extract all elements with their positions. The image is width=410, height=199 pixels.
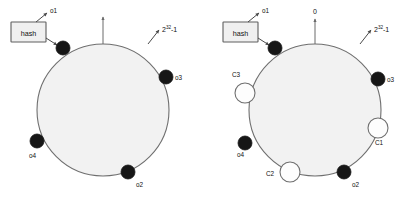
object-node-o2-right	[337, 165, 351, 179]
hash-function-label-right: hash	[233, 29, 249, 38]
object-node-o2-left	[121, 165, 135, 179]
ring-diagram-canvas: 232-1 hash o1 o3 o2 o4 0	[0, 0, 410, 199]
cache-node-c3-right	[235, 83, 255, 103]
cache-label-c2-right: C2	[266, 170, 275, 177]
cache-label-c3-right: C3	[232, 71, 241, 78]
hash-to-ring-pointer-right	[258, 38, 269, 45]
object-label-o4-right: o4	[237, 151, 245, 158]
hash-ring-circle-left	[37, 44, 169, 176]
max-range-label-left: 232-1	[162, 25, 177, 33]
object-label-o3-right: o3	[387, 76, 395, 83]
hash-function-label-left: hash	[21, 29, 37, 38]
o1-pointer-label-left: o1	[50, 7, 58, 14]
o1-pointer-label-right: o1	[262, 7, 270, 14]
object-node-o4-left	[30, 134, 44, 148]
hash-to-o1-pointer-left	[36, 13, 47, 22]
hash-ring-circle-right	[249, 44, 381, 176]
object-node-o1-left	[56, 41, 70, 55]
cache-node-c1-right	[368, 118, 388, 138]
ring-origin-label-right: 0	[313, 8, 317, 15]
object-node-o3-left	[159, 70, 173, 84]
panel-left: 232-1 hash o1 o3 o2 o4	[11, 7, 183, 188]
cache-node-c2-right	[280, 162, 300, 182]
object-label-o2-right: o2	[352, 181, 360, 188]
object-node-o3-right	[371, 72, 385, 86]
object-node-o1-right	[268, 41, 282, 55]
object-label-o3-left: o3	[175, 74, 183, 81]
max-range-suffix-right: -1	[383, 26, 389, 33]
hash-to-ring-pointer-left	[46, 38, 57, 45]
consistent-hashing-figure: 232-1 hash o1 o3 o2 o4 0	[0, 0, 410, 199]
max-range-leader-left	[148, 30, 159, 44]
max-range-leader-right	[360, 30, 371, 44]
object-label-o2-left: o2	[136, 181, 144, 188]
max-range-label-right: 232-1	[374, 25, 389, 33]
panel-right: 0 232-1 hash o1 o3 o2 o4 C1 C2	[223, 7, 395, 188]
object-label-o4-left: o4	[29, 152, 37, 159]
max-range-suffix-left: -1	[171, 26, 177, 33]
cache-label-c1-right: C1	[375, 139, 384, 146]
object-node-o4-right	[238, 136, 252, 150]
hash-to-o1-pointer-right	[248, 13, 259, 22]
